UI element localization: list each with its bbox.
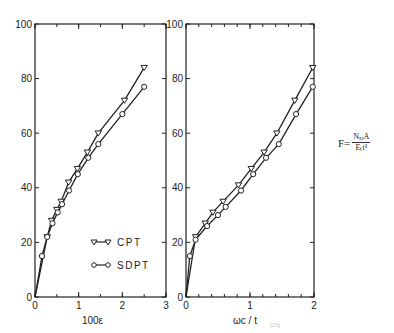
y-tick-label: 100 (166, 19, 183, 30)
y-tick-label: 80 (21, 73, 33, 84)
x-tick-label: 1 (247, 300, 253, 311)
legend-label-cpt: CPT (117, 237, 142, 248)
circle-marker (86, 155, 91, 160)
circle-marker (59, 202, 64, 207)
circle-marker (55, 210, 60, 215)
formula-denominator: Eₜt³ (356, 143, 368, 153)
circle-marker (215, 213, 220, 218)
circle-marker (193, 237, 198, 242)
y-tick-label: 40 (21, 182, 33, 193)
y-tick-label: 40 (172, 182, 184, 193)
figure: 0204060801000123100εCPTSDPT0204060801000… (0, 0, 394, 333)
x-axis-label: 100ε (82, 315, 104, 326)
chart-panel-2: 020406080100012ωc / t (166, 19, 317, 327)
x-tick-label: 2 (120, 300, 126, 311)
chart-panel-1: 0204060801000123100εCPTSDPT (15, 19, 169, 327)
x-tick-label: 1 (76, 300, 82, 311)
circle-marker (205, 223, 210, 228)
legend-label-sdpt: SDPT (117, 260, 150, 271)
circle-marker (251, 172, 256, 177)
triangle-marker (65, 180, 71, 185)
circle-marker (120, 111, 125, 116)
circle-marker (310, 84, 315, 89)
circle-marker (45, 234, 50, 239)
circle-marker (187, 253, 192, 258)
triangle-marker (141, 65, 147, 70)
plot-frame (186, 24, 314, 297)
x-tick-label: 0 (183, 300, 189, 311)
series-line-sdpt (186, 87, 313, 297)
y-tick-label: 60 (21, 128, 33, 139)
circle-marker (39, 253, 44, 258)
y-tick-label: 100 (15, 19, 32, 30)
triangle-marker (310, 65, 316, 70)
circle-marker (238, 188, 243, 193)
x-tick-label: 0 (32, 300, 38, 311)
circle-marker (263, 155, 268, 160)
circle-marker (293, 111, 298, 116)
y-tick-label: 80 (172, 73, 184, 84)
circle-marker (50, 221, 55, 226)
legend: CPTSDPT (91, 237, 150, 271)
formula-numerator: NₓᵧA (352, 132, 370, 143)
caption-ref: (23) (270, 322, 280, 328)
triangle-marker (95, 131, 101, 136)
triangle-marker (84, 150, 90, 155)
formula-fraction: NₓᵧA Eₜt³ (352, 132, 370, 153)
x-axis-label: ωc / t (233, 315, 257, 326)
y-tick-label: 20 (172, 237, 184, 248)
y-tick-label: 60 (172, 128, 184, 139)
formula: F= NₓᵧA Eₜt³ (338, 132, 370, 153)
circle-marker (276, 142, 281, 147)
circle-marker (223, 204, 228, 209)
formula-lhs: F= (338, 137, 350, 149)
triangle-marker (274, 131, 280, 136)
y-tick-label: 20 (21, 237, 33, 248)
x-tick-label: 2 (311, 300, 317, 311)
x-tick-label: 3 (163, 300, 169, 311)
triangle-marker (292, 98, 298, 103)
circle-marker (75, 172, 80, 177)
circle-marker (66, 188, 71, 193)
circle-marker (142, 84, 147, 89)
circle-marker (96, 142, 101, 147)
